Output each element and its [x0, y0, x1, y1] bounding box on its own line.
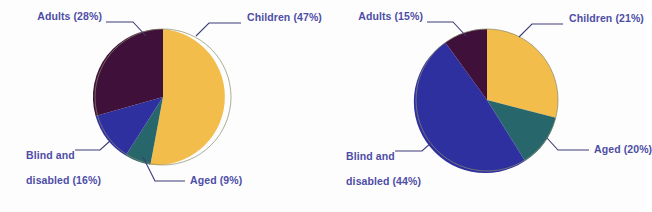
leader-line-children	[519, 24, 563, 37]
pie-label-aged: Aged (9%)	[190, 174, 242, 187]
leader-line-aged	[547, 138, 589, 150]
pie-label-blind-and-disabled: Blind and disabled (16%)	[8, 136, 101, 199]
leader-line-children	[196, 23, 241, 36]
pie-label-blind-and-disabled: Blind and disabled (44%)	[328, 137, 421, 200]
pie-label-blind-line1: Blind and	[26, 149, 75, 161]
pie-label-blind-line2: disabled (44%)	[346, 175, 421, 187]
pie-label-adults: Adults (15%)	[333, 10, 423, 23]
pie-chart-right: Adults (15%) Children (21%) Blind and di…	[323, 0, 646, 212]
pie-label-children: Children (21%)	[569, 12, 644, 25]
pie-label-blind-line2: disabled (16%)	[26, 174, 101, 186]
pie-chart-left: Adults (28%) Children (47%) Blind and di…	[0, 0, 323, 212]
pie-label-aged: Aged (20%)	[594, 143, 652, 156]
pie-label-blind-line1: Blind and	[346, 150, 395, 162]
pie-label-adults: Adults (28%)	[14, 10, 102, 23]
pie-label-children: Children (47%)	[247, 11, 322, 24]
